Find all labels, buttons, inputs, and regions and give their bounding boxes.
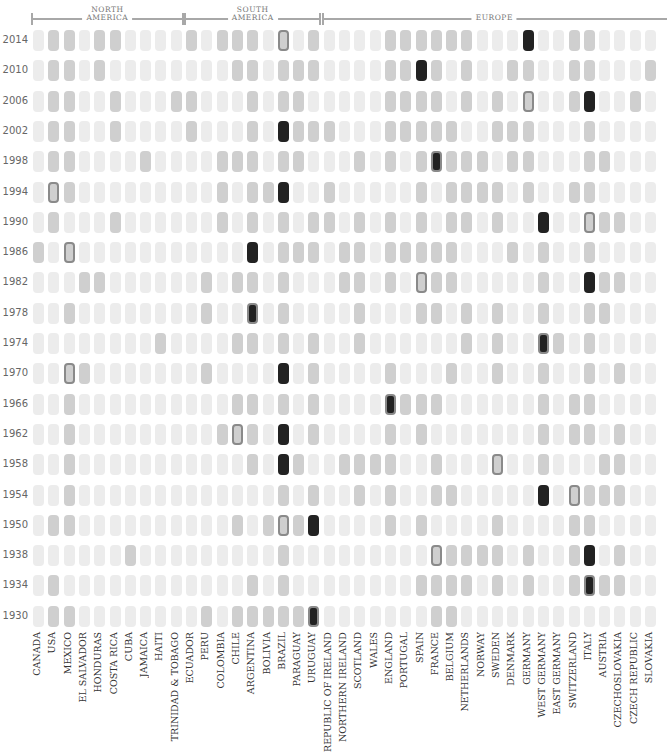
data-cell (125, 454, 136, 475)
data-cell (599, 454, 610, 475)
country-label: PORTUGAL (398, 632, 412, 747)
data-cell (614, 182, 625, 203)
data-cell (354, 485, 365, 506)
data-cell (630, 454, 641, 475)
data-cell (569, 242, 580, 263)
data-cell (507, 363, 518, 384)
data-cell (507, 91, 518, 112)
data-cell (538, 454, 549, 475)
data-cell (247, 363, 258, 384)
data-cell (217, 272, 228, 293)
data-cell (538, 363, 549, 384)
data-cell (446, 272, 457, 293)
data-cell (431, 575, 442, 596)
data-cell (385, 303, 396, 324)
data-cell (186, 545, 197, 566)
winner-cell (538, 333, 549, 354)
data-cell (94, 91, 105, 112)
country-label-text: BRAZIL (276, 632, 287, 670)
host-cell (523, 91, 534, 112)
data-cell (263, 333, 274, 354)
data-cell (33, 485, 44, 506)
data-cell (232, 485, 243, 506)
data-cell (232, 575, 243, 596)
data-cell (247, 182, 258, 203)
data-cell (400, 454, 411, 475)
country-label-text: HONDURAS (92, 632, 103, 693)
region-bracket: EUROPE (322, 6, 667, 26)
data-cell (645, 212, 656, 233)
data-cell (523, 151, 534, 172)
data-cell (125, 60, 136, 81)
data-cell (64, 515, 75, 536)
data-cell (125, 515, 136, 536)
data-cell (79, 182, 90, 203)
data-cell (263, 212, 274, 233)
data-cell (186, 363, 197, 384)
data-cell (385, 30, 396, 51)
data-cell (171, 454, 182, 475)
data-cell (155, 303, 166, 324)
data-cell (293, 363, 304, 384)
data-cell (569, 545, 580, 566)
data-cell (217, 333, 228, 354)
data-cell (33, 121, 44, 142)
year-label: 1978 (0, 307, 28, 318)
data-cell (125, 151, 136, 172)
data-cell (569, 454, 580, 475)
data-cell (385, 606, 396, 627)
data-cell (630, 182, 641, 203)
data-cell (614, 545, 625, 566)
data-cell (630, 606, 641, 627)
data-cell (308, 485, 319, 506)
data-cell (614, 272, 625, 293)
data-cell (461, 272, 472, 293)
data-cell (79, 121, 90, 142)
country-label: JAMAICA (138, 632, 152, 747)
data-cell (324, 303, 335, 324)
data-cell (492, 575, 503, 596)
data-cell (523, 333, 534, 354)
data-cell (217, 121, 228, 142)
data-cell (569, 515, 580, 536)
data-cell (79, 272, 90, 293)
data-cell (94, 60, 105, 81)
data-cell (155, 212, 166, 233)
data-cell (538, 60, 549, 81)
country-label: WALES (368, 632, 382, 747)
data-cell (492, 30, 503, 51)
data-cell (339, 91, 350, 112)
data-cell (64, 272, 75, 293)
data-cell (461, 485, 472, 506)
data-cell (278, 333, 289, 354)
data-cell (293, 91, 304, 112)
data-cell (507, 606, 518, 627)
data-cell (599, 60, 610, 81)
data-cell (201, 242, 212, 263)
data-cell (477, 394, 488, 415)
data-cell (186, 394, 197, 415)
data-cell (125, 394, 136, 415)
data-cell (385, 485, 396, 506)
data-cell (446, 606, 457, 627)
data-cell (155, 30, 166, 51)
data-cell (385, 121, 396, 142)
data-cell (569, 606, 580, 627)
data-cell (278, 242, 289, 263)
data-cell (461, 303, 472, 324)
data-cell (201, 454, 212, 475)
data-cell (293, 394, 304, 415)
data-cell (308, 575, 319, 596)
data-cell (308, 394, 319, 415)
data-cell (232, 363, 243, 384)
data-cell (461, 30, 472, 51)
country-label: CZECH REPUBLIC (628, 632, 642, 747)
data-cell (110, 272, 121, 293)
country-label-text: TRINIDAD & TOBAGO (169, 632, 180, 741)
data-cell (630, 575, 641, 596)
data-cell (385, 515, 396, 536)
data-cell (324, 515, 335, 536)
data-cell (507, 242, 518, 263)
data-cell (400, 151, 411, 172)
data-cell (446, 454, 457, 475)
